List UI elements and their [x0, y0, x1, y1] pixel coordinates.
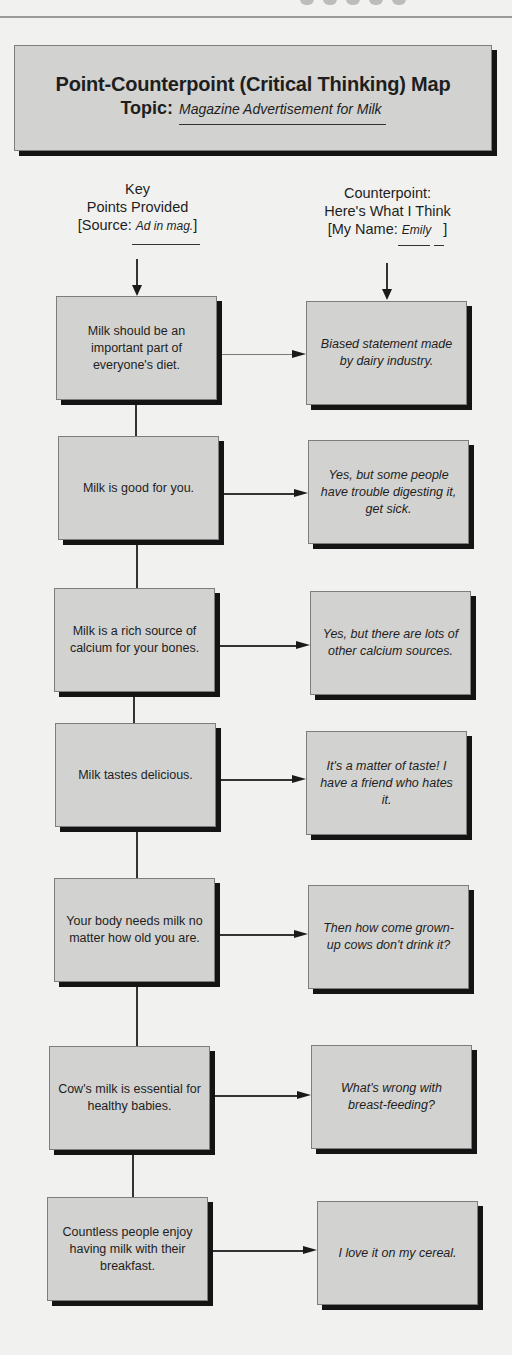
- pair-connector: [220, 645, 296, 647]
- pair-connector: [224, 493, 294, 495]
- source-value: Ad in mag.: [136, 219, 193, 233]
- spine-connector: [133, 695, 135, 725]
- key-point-text: Cow's milk is essential for healthy babi…: [58, 1081, 201, 1115]
- counterpoint-box: I love it on my cereal.: [317, 1201, 478, 1305]
- counterpoint-header: Counterpoint: Here's What I Think [My Na…: [295, 184, 480, 239]
- key-point-box: Your body needs milk no matter how old y…: [54, 878, 215, 982]
- counterpoint-line1: Counterpoint:: [295, 184, 480, 202]
- right-header-connector: [386, 263, 388, 291]
- arrow-right-icon: [294, 930, 308, 938]
- source-suffix: ]: [193, 217, 197, 233]
- left-header-connector: [136, 259, 138, 287]
- spine-connector: [132, 1153, 134, 1199]
- counterpoint-text: Biased statement made by dairy industry.: [315, 336, 458, 370]
- pair-connector: [213, 1250, 303, 1252]
- spine-connector: [136, 542, 138, 590]
- name-underline-2: [434, 245, 444, 246]
- name-value: Emily: [402, 223, 431, 237]
- source-line: [Source: Ad in mag.]: [55, 216, 220, 235]
- source-underline: [132, 244, 200, 245]
- key-point-text: Milk tastes delicious.: [78, 767, 193, 784]
- arrow-down-icon: [132, 285, 142, 296]
- counterpoint-line2: Here's What I Think: [295, 202, 480, 220]
- pair-connector: [221, 779, 292, 781]
- counterpoint-text: What's wrong with breast-feeding?: [320, 1080, 463, 1114]
- key-point-box: Milk should be an important part of ever…: [56, 296, 217, 400]
- key-point-box: Milk is good for you.: [58, 436, 219, 540]
- title-box: Point-Counterpoint (Critical Thinking) M…: [14, 45, 492, 151]
- map-title: Point-Counterpoint (Critical Thinking) M…: [56, 72, 451, 96]
- source-prefix: [Source:: [78, 217, 136, 233]
- key-point-text: Countless people enjoy having milk with …: [56, 1224, 199, 1275]
- topic-row: Topic: Magazine Advertisement for Milk: [120, 96, 385, 125]
- arrow-right-icon: [294, 489, 308, 497]
- key-point-text: Your body needs milk no matter how old y…: [63, 913, 206, 947]
- counterpoint-box: It's a matter of taste! I have a friend …: [306, 731, 467, 835]
- name-line: [My Name: Emily ]: [295, 220, 480, 239]
- name-prefix: [My Name:: [328, 221, 402, 237]
- clipped-page-heading: [300, 0, 440, 5]
- counterpoint-box: Yes, but there are lots of other calcium…: [310, 591, 471, 695]
- name-underline: [398, 245, 430, 246]
- counterpoint-text: Yes, but there are lots of other calcium…: [319, 626, 462, 660]
- key-point-text: Milk is a rich source of calcium for you…: [63, 623, 206, 657]
- counterpoint-text: I love it on my cereal.: [338, 1245, 456, 1262]
- key-point-text: Milk should be an important part of ever…: [65, 323, 208, 374]
- arrow-right-icon: [292, 350, 306, 358]
- pair-connector: [222, 354, 292, 355]
- key-point-text: Milk is good for you.: [83, 480, 194, 497]
- counterpoint-text: Then how come grown-up cows don't drink …: [317, 920, 460, 954]
- arrow-right-icon: [297, 1091, 311, 1099]
- counterpoint-box: What's wrong with breast-feeding?: [311, 1045, 472, 1149]
- pair-connector: [215, 1095, 297, 1097]
- topic-label: Topic:: [120, 96, 173, 120]
- arrow-right-icon: [292, 775, 306, 783]
- arrow-right-icon: [296, 641, 310, 649]
- key-point-box: Countless people enjoy having milk with …: [47, 1197, 208, 1301]
- counterpoint-text: Yes, but some people have trouble digest…: [317, 467, 460, 518]
- page-divider: [0, 16, 512, 18]
- counterpoint-box: Then how come grown-up cows don't drink …: [308, 885, 469, 989]
- spine-connector: [136, 831, 138, 880]
- key-point-box: Cow's milk is essential for healthy babi…: [49, 1046, 210, 1150]
- counterpoint-box: Biased statement made by dairy industry.: [306, 301, 467, 405]
- spine-connector: [135, 401, 137, 437]
- topic-value: Magazine Advertisement for Milk: [179, 97, 386, 125]
- arrow-right-icon: [303, 1246, 317, 1254]
- key-point-box: Milk tastes delicious.: [55, 723, 216, 827]
- counterpoint-box: Yes, but some people have trouble digest…: [308, 440, 469, 544]
- spine-connector: [136, 985, 138, 1047]
- key-points-line1: Key: [55, 180, 220, 198]
- key-points-line2: Points Provided: [55, 198, 220, 216]
- arrow-down-icon: [382, 289, 392, 300]
- key-points-header: Key Points Provided [Source: Ad in mag.]: [55, 180, 220, 235]
- pair-connector: [220, 934, 294, 936]
- key-point-box: Milk is a rich source of calcium for you…: [54, 588, 215, 692]
- name-suffix: ]: [443, 221, 447, 237]
- counterpoint-text: It's a matter of taste! I have a friend …: [315, 758, 458, 809]
